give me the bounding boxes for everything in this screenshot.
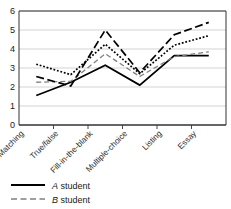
chart-canvas: 0123456MatchingTrue/falseFill-in-the-bla… <box>0 0 231 209</box>
series-line-a-student <box>36 56 209 96</box>
legend-label-b: B student <box>52 195 91 205</box>
y-tick-label: 3 <box>10 63 15 73</box>
legend: A studentB student <box>11 181 91 205</box>
legend-label-text: student <box>58 181 91 191</box>
gridlines: 0123456 <box>10 6 226 130</box>
series-group <box>36 22 209 95</box>
x-ticks <box>54 125 192 129</box>
legend-emphasis: A <box>51 181 58 191</box>
y-tick-label: 0 <box>10 120 15 130</box>
series-line-series-3 <box>36 22 209 86</box>
x-tick-label: Essay <box>176 128 199 151</box>
y-tick-label: 4 <box>10 44 15 54</box>
legend-label-a: A student <box>51 181 91 191</box>
line-chart: 0123456MatchingTrue/falseFill-in-the-bla… <box>0 0 231 209</box>
y-tick-label: 5 <box>10 25 15 35</box>
legend-label-text: student <box>58 195 91 205</box>
x-tick-labels: MatchingTrue/falseFill-in-the-blankMulti… <box>0 128 199 175</box>
y-tick-label: 6 <box>10 6 15 16</box>
y-tick-label: 1 <box>10 101 15 111</box>
y-tick-label: 2 <box>10 82 15 92</box>
x-tick-label: Matching <box>0 129 26 159</box>
x-tick-label: True/false <box>28 129 60 161</box>
x-tick-label: Listing <box>141 129 164 152</box>
